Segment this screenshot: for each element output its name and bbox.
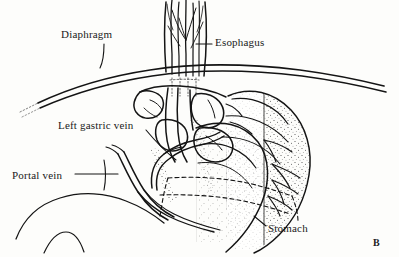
leader-diaphragm [100, 44, 104, 68]
anatomy-figure: Diaphragm Esophagus Left gastric vein Po… [0, 0, 399, 257]
label-left-gastric-vein: Left gastric vein [58, 119, 133, 131]
label-portal-vein: Portal vein [12, 169, 62, 181]
figure-panel-letter: B [373, 237, 380, 248]
label-diaphragm: Diaphragm [61, 28, 112, 40]
diaphragm [20, 65, 386, 117]
label-esophagus: Esophagus [215, 36, 264, 48]
adjacent-organ-contour [16, 194, 164, 253]
label-stomach: Stomach [268, 222, 308, 234]
leader-portal-vein-tick [104, 160, 106, 190]
